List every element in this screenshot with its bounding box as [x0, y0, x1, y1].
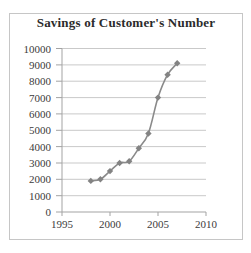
chart-image: Savings of Customer's Number 01000200030…	[0, 0, 251, 253]
y-tick-label: 9000	[29, 59, 52, 71]
data-point-marker	[155, 94, 161, 100]
x-tick-label: 2010	[195, 218, 218, 230]
y-tick-label: 2000	[29, 173, 52, 185]
y-tick-label: 1000	[29, 190, 52, 202]
line-chart: 0100020003000400050006000700080009000100…	[0, 0, 251, 253]
y-tick-label: 3000	[29, 157, 52, 169]
x-tick-label: 2005	[147, 218, 170, 230]
data-point-marker	[145, 130, 151, 136]
x-tick-label: 1995	[51, 218, 74, 230]
x-tick-label: 2000	[99, 218, 122, 230]
y-tick-label: 5000	[29, 124, 52, 136]
data-point-marker	[88, 178, 94, 184]
y-tick-label: 6000	[29, 108, 52, 120]
y-tick-label: 10000	[24, 43, 52, 55]
y-tick-label: 4000	[29, 141, 52, 153]
y-tick-label: 0	[46, 206, 52, 218]
y-tick-label: 7000	[29, 92, 52, 104]
y-tick-label: 8000	[29, 75, 52, 87]
